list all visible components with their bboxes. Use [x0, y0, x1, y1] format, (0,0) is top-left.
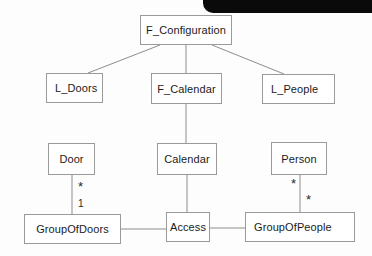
multiplicity-person-many: *: [291, 177, 296, 190]
class-box-person[interactable]: Person: [271, 142, 327, 175]
class-box-access[interactable]: Access: [166, 212, 210, 242]
class-label-person: Person: [281, 153, 316, 165]
multiplicity-groupofpeople-many: *: [306, 193, 311, 206]
class-label-f-configuration: F_Configuration: [146, 24, 226, 36]
class-label-l-people: L_People: [271, 83, 318, 95]
class-box-calendar[interactable]: Calendar: [157, 143, 217, 175]
class-label-groupofpeople: GroupOfPeople: [254, 221, 332, 233]
class-label-l-doors: L_Doors: [55, 82, 97, 94]
class-box-door[interactable]: Door: [48, 143, 95, 175]
multiplicity-door-many: *: [78, 180, 83, 193]
edge-config-to-doors: [88, 45, 160, 73]
edge-config-to-people: [212, 45, 284, 74]
multiplicity-groupofdoors-one: 1: [78, 199, 84, 209]
class-label-calendar: Calendar: [164, 153, 209, 165]
class-box-groupofpeople[interactable]: GroupOfPeople: [245, 212, 355, 242]
class-label-f-calendar: F_Calendar: [157, 83, 215, 95]
uml-class-diagram: F_Configuration L_Doors F_Calendar L_Peo…: [0, 0, 372, 256]
class-box-l-people[interactable]: L_People: [262, 74, 335, 104]
class-box-groupofdoors[interactable]: GroupOfDoors: [24, 214, 121, 244]
class-label-door: Door: [59, 153, 83, 165]
class-label-groupofdoors: GroupOfDoors: [36, 223, 109, 235]
class-box-l-doors[interactable]: L_Doors: [46, 73, 103, 103]
class-box-f-calendar[interactable]: F_Calendar: [151, 73, 222, 104]
class-box-f-configuration[interactable]: F_Configuration: [140, 15, 232, 45]
class-label-access: Access: [170, 221, 206, 233]
